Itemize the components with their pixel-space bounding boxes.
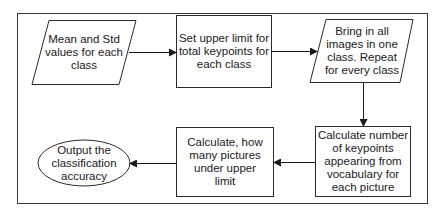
- node-mean-std-label: Mean and Std values for each class: [40, 22, 128, 83]
- node-output-text: Output the classification accuracy: [44, 144, 124, 183]
- node-upper-limit-text: Set upper limit for total keypoints for …: [178, 32, 270, 71]
- node-calc-under-text: Calculate, how many pictures under upper…: [186, 136, 264, 188]
- node-calc-keypoints-label: Calculate number of keypoints appearing …: [316, 127, 410, 196]
- node-bring-images-text: Bring in all images in one class. Repeat…: [320, 25, 404, 77]
- node-calc-under-label: Calculate, how many pictures under upper…: [186, 128, 264, 196]
- node-bring-images-label: Bring in all images in one class. Repeat…: [320, 21, 404, 81]
- node-calc-keypoints-text: Calculate number of keypoints appearing …: [316, 129, 410, 194]
- node-upper-limit-label: Set upper limit for total keypoints for …: [178, 17, 270, 86]
- node-mean-std-text: Mean and Std values for each class: [40, 33, 128, 72]
- node-output-label: Output the classification accuracy: [44, 141, 124, 185]
